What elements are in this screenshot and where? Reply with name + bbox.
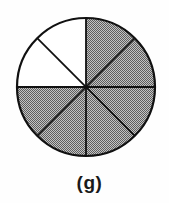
figure-caption: (g) (5, 172, 169, 194)
fraction-circle (0, 0, 169, 168)
figure: (g) (0, 0, 169, 203)
